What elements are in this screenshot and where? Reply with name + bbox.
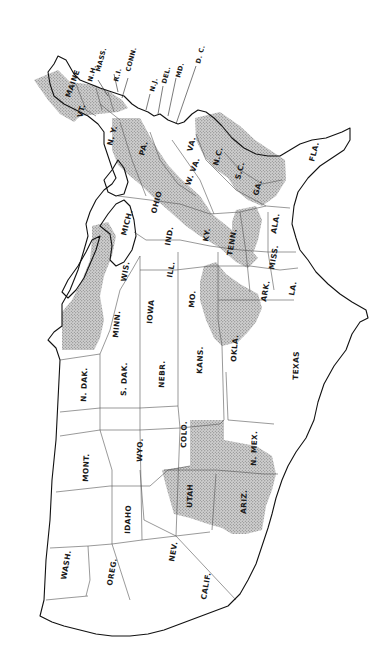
label-utah: UTAH <box>185 484 195 508</box>
label-ala: ALA. <box>269 213 281 235</box>
label-va: VA. <box>185 136 198 153</box>
label-mich: MICH. <box>119 209 135 237</box>
label-calif: CALIF. <box>199 572 213 601</box>
label-md: MD. <box>174 62 186 79</box>
label-kans: KANS. <box>195 346 205 374</box>
label-wash: WASH. <box>59 549 73 580</box>
label-del: DEL. <box>160 65 172 84</box>
label-nebr: NEBR. <box>157 360 167 388</box>
label-nmex: N. MEX. <box>249 431 259 466</box>
label-fla: FLA. <box>307 141 321 163</box>
label-ariz: ARIZ. <box>239 490 249 514</box>
label-dc: D. C. <box>194 44 207 64</box>
label-ri: R.I. <box>112 67 123 82</box>
label-ind: IND. <box>163 226 175 247</box>
label-sdak: S. DAK. <box>119 362 129 396</box>
label-iowa: IOWA <box>145 299 156 324</box>
label-nj: N.J. <box>148 77 159 93</box>
shade-carolinas-georgia <box>195 112 286 206</box>
label-okla: OKLA. <box>229 334 240 362</box>
label-colo: COLO. <box>179 421 189 448</box>
label-idaho: IDAHO <box>123 505 133 534</box>
label-minn: MINN. <box>111 310 122 338</box>
label-mass: MASS. <box>94 47 108 73</box>
label-miss: MISS. <box>267 244 280 270</box>
us-state-map: MAINE VT. N.H. MASS. R.I. CONN. N. Y. N.… <box>0 0 384 658</box>
label-wyo: WYO. <box>135 438 145 462</box>
label-mo: MO. <box>187 290 197 308</box>
label-la: LA. <box>287 281 298 297</box>
label-texas: TEXAS <box>291 351 301 380</box>
label-ark: ARK. <box>259 280 272 303</box>
shade-upper-great-lakes <box>62 222 116 350</box>
label-ill: ILL. <box>165 261 177 279</box>
label-ndak: N. DAK. <box>79 367 89 402</box>
label-conn: CONN. <box>124 46 138 72</box>
label-mont: MONT. <box>81 453 91 482</box>
label-nev: NEV. <box>167 541 179 563</box>
label-wva: W. VA. <box>183 156 201 186</box>
label-oreg: OREG. <box>105 557 119 586</box>
shade-ozarks <box>200 262 262 346</box>
